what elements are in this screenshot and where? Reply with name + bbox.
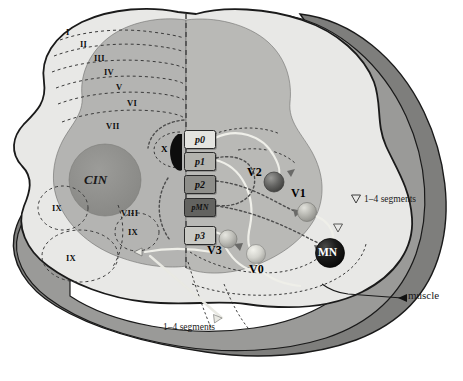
lamina-label-IX-1: IX [52, 203, 62, 213]
progenitor-box-pMN[interactable]: pMN [184, 198, 216, 217]
neuron-label-V3: V3 [207, 243, 222, 258]
progenitor-box-p1[interactable]: p1 [184, 152, 216, 171]
figure-canvas: I II III IV V VI VII VIII IX IX IX X CIN… [0, 0, 463, 381]
lamina-label-VII: VII [106, 121, 120, 131]
lamina-label-I: I [66, 27, 70, 37]
neuron-label-V0: V0 [249, 262, 264, 277]
neuron-V2 [264, 172, 284, 192]
lamina-label-IX-3: IX [66, 253, 76, 263]
neuron-label-V1: V1 [291, 186, 306, 201]
spinal-cord-anatomy [0, 0, 463, 381]
neuron-V3 [219, 230, 237, 248]
neuron-V1 [298, 203, 317, 222]
lamina-label-II: II [80, 39, 87, 49]
annotation-segments-bottom: 1–4 segments [163, 322, 215, 332]
lamina-label-V: V [116, 82, 122, 92]
lamina-label-VIII: VIII [121, 208, 138, 218]
lamina-label-IX-2: IX [128, 227, 138, 237]
annotation-muscle: muscle [408, 289, 439, 301]
progenitor-box-p0[interactable]: p0 [184, 130, 216, 149]
lamina-label-VI: VI [127, 98, 137, 108]
cin-label: CIN [84, 172, 107, 188]
annotation-segments-right: 1–4 segments [364, 194, 416, 204]
progenitor-box-p2[interactable]: p2 [184, 175, 216, 194]
lamina-label-IV: IV [104, 67, 114, 77]
neuron-label-MN: MN [318, 246, 337, 258]
lamina-x-label: X [161, 144, 168, 154]
neuron-label-V2: V2 [247, 165, 262, 180]
lamina-label-III: III [94, 53, 105, 63]
neuron-V0 [247, 245, 266, 264]
